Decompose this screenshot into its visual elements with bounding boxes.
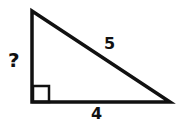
triangle-figure	[0, 0, 178, 126]
right-angle-marker	[33, 86, 49, 102]
vertical-leg-label: ?	[8, 50, 20, 70]
right-triangle	[32, 11, 170, 102]
horizontal-leg-label: 4	[91, 106, 102, 122]
hypotenuse-label: 5	[104, 36, 115, 52]
